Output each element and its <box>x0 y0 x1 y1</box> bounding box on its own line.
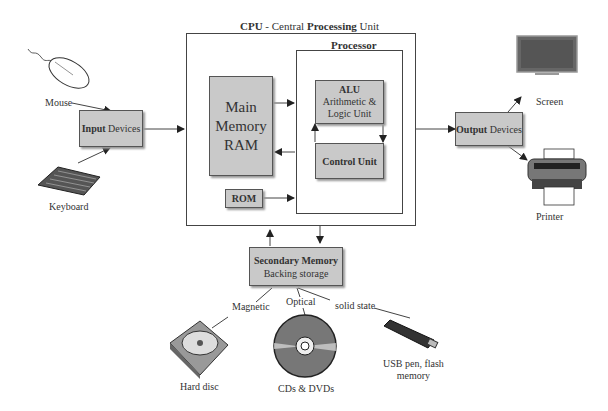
cd-dvd-icon <box>272 313 338 379</box>
solid-state-label: solid state <box>335 300 375 311</box>
magnetic-label: Magnetic <box>232 301 270 312</box>
processor-frame <box>296 50 403 214</box>
mouse-icon <box>25 45 95 95</box>
screen-icon <box>515 34 580 79</box>
keyboard-label: Keyboard <box>49 201 88 212</box>
cds-dvds-label: CDs & DVDs <box>278 383 334 394</box>
usb-icon <box>380 318 440 354</box>
cpu-title: CPU - Central Processing Unit <box>240 20 379 32</box>
mouse-label: Mouse <box>45 97 72 108</box>
rom-box: ROM <box>225 189 263 208</box>
screen-label: Screen <box>536 96 563 107</box>
main-memory-ram: Main Memory RAM <box>209 76 273 176</box>
printer-icon <box>520 147 590 209</box>
hard-disc-label: Hard disc <box>180 381 219 392</box>
secondary-memory-box: Secondary Memory Backing storage <box>249 247 343 286</box>
hard-disc-icon <box>166 315 232 381</box>
alu-box: ALU Arithmetic & Logic Unit <box>315 80 384 124</box>
usb-label: USB pen, flash memory <box>383 358 444 382</box>
printer-label: Printer <box>536 211 563 222</box>
input-devices-box: Input Devices <box>79 110 143 147</box>
output-devices-box: Output Devices <box>455 112 523 146</box>
control-unit-box: Control Unit <box>315 143 384 179</box>
keyboard-icon <box>34 163 104 199</box>
optical-label: Optical <box>286 296 315 307</box>
